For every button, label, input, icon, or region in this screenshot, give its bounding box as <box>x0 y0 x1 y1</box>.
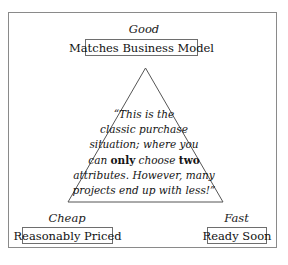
corner-label-cheap: Cheap <box>22 212 112 225</box>
quote-line-3: situation; where you <box>44 137 244 152</box>
attribute-box-fast: Ready Soon <box>207 227 267 244</box>
quote-line-4: can only choose two <box>44 153 244 168</box>
quote-emphasis-only: only <box>111 154 136 166</box>
quote-line-2: classic purchase <box>44 122 244 137</box>
quote-line-4-part1: can <box>88 154 110 166</box>
quote-line-1: “This is the <box>44 107 244 122</box>
quote-emphasis-two: two <box>179 154 200 166</box>
triangle-quote-text: “This is the classic purchase situation;… <box>44 107 244 198</box>
corner-label-fast: Fast <box>207 212 266 225</box>
quote-line-6: projects end up with less!” <box>44 183 244 198</box>
diagram-canvas: Good Matches Business Model Cheap Reason… <box>0 0 288 265</box>
quote-line-4-part2: choose <box>135 154 179 166</box>
corner-label-good: Good <box>0 23 288 36</box>
attribute-box-good: Matches Business Model <box>85 39 198 56</box>
quote-line-5: attributes. However, many <box>44 168 244 183</box>
attribute-box-cheap: Reasonably Priced <box>22 227 113 244</box>
